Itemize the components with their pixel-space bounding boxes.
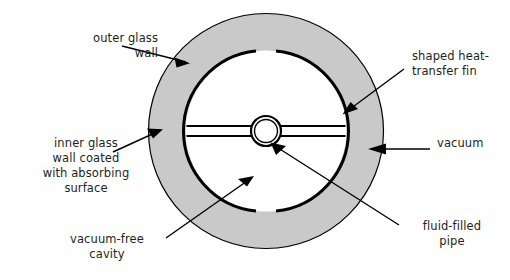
label-line-2: cavity [89,247,124,261]
label-shaped-heat-transfer-fin: shaped heat-transfer fin [412,49,508,79]
shaped-heat-transfer-fin-right [280,126,346,136]
fluid-filled-pipe-inner-circle [255,120,278,143]
label-line-2: wall coated [53,151,120,165]
label-line-1: inner glass [54,136,118,150]
diagram-page: outer glasswall inner glasswall coatedwi… [0,0,510,280]
label-inner-glass-wall: inner glasswall coatedwith absorbingsurf… [16,136,156,196]
label-fluid-filled-pipe: fluid-filledpipe [404,219,500,249]
label-vacuum-free-cavity: vacuum-freecavity [54,232,160,262]
label-line-2: transfer fin [412,64,477,78]
label-line-1: vacuum-free [70,232,144,246]
label-vacuum: vacuum [437,136,507,151]
label-line-1: shaped heat- [412,49,489,63]
label-line-4: surface [64,181,107,195]
label-line-1: fluid-filled [423,219,481,233]
label-line-1: vacuum [437,136,484,150]
label-line-2: pipe [439,234,464,248]
label-line-2: wall [135,46,158,60]
label-outer-glass-wall: outer glasswall [36,31,158,61]
label-line-1: outer glass [93,31,158,45]
label-line-3: with absorbing [43,166,130,180]
shaped-heat-transfer-fin-left [187,126,253,136]
